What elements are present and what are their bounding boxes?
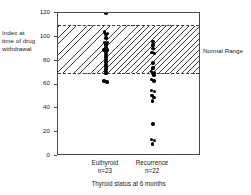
group-name: Recurrence (136, 159, 169, 166)
y-axis-tick-label: 60 (28, 80, 50, 86)
data-point (153, 90, 156, 93)
group-count: n=22 (120, 167, 184, 175)
normal-range-label: Normal Range (203, 47, 243, 54)
data-point (152, 73, 155, 76)
data-point (151, 99, 154, 102)
data-point (151, 142, 154, 145)
y-axis-tick-mark (54, 60, 58, 61)
data-point (105, 80, 108, 83)
y-axis-tick-label: 20 (28, 128, 50, 134)
data-point (151, 66, 154, 69)
data-point (104, 13, 107, 15)
y-axis-tick-label: 100 (28, 33, 50, 39)
y-axis-tick-mark (54, 155, 58, 156)
y-axis-tick-mark (54, 131, 58, 132)
data-point (151, 122, 154, 125)
group-name: Euthyroid (92, 159, 119, 166)
x-axis-caption: Thyroid status at 6 months (57, 180, 200, 187)
data-point (151, 61, 154, 64)
data-point (152, 79, 155, 82)
y-axis-tick-label: 120 (28, 9, 50, 15)
y-axis-tick-label: 0 (28, 152, 50, 158)
normal-range-band (58, 25, 199, 74)
scatter-chart: Index at time of drug withdrawal 0204060… (0, 0, 251, 195)
y-axis-tick-label: 80 (28, 57, 50, 63)
plot-area (57, 12, 200, 155)
y-axis-caption-line-3: withdrawal (2, 45, 46, 53)
y-axis-tick-mark (54, 12, 58, 13)
data-point (104, 72, 107, 75)
y-axis-tick-mark (54, 107, 58, 108)
x-axis-group-label: Recurrencen=22 (120, 159, 184, 176)
data-point (104, 36, 107, 39)
y-axis-tick-label: 40 (28, 104, 50, 110)
y-axis-tick-mark (54, 36, 58, 37)
y-axis-tick-mark (54, 84, 58, 85)
plot-inner (58, 13, 199, 154)
